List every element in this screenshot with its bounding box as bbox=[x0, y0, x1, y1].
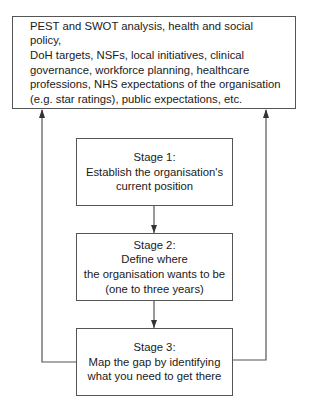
context-line: PEST and SWOT analysis, health and socia… bbox=[30, 19, 281, 48]
context-factors-box: PEST and SWOT analysis, health and socia… bbox=[12, 16, 296, 109]
stage-line: what you need to get there bbox=[77, 369, 232, 384]
stage-title: Stage 3: bbox=[77, 340, 232, 355]
stage-line: Map the gap by identifying bbox=[77, 355, 232, 370]
feedback-right-loop bbox=[233, 110, 266, 360]
feedback-left-loop bbox=[42, 110, 77, 362]
stage-title: Stage 1: bbox=[77, 150, 232, 165]
stage-line: the organisation wants to be bbox=[77, 267, 232, 282]
stage-line: Establish the organisation's bbox=[77, 165, 232, 180]
stage-line: Define where bbox=[77, 252, 232, 267]
context-line: professions, NHS expectations of the org… bbox=[30, 77, 281, 92]
context-line: DoH targets, NSFs, local initiatives, cl… bbox=[30, 48, 281, 63]
context-line: (e.g. star ratings), public expectations… bbox=[30, 92, 281, 107]
stage-1-box: Stage 1: Establish the organisation's cu… bbox=[76, 138, 233, 206]
stage-line: (one to three years) bbox=[77, 282, 232, 297]
stage-3-box: Stage 3: Map the gap by identifying what… bbox=[76, 328, 233, 396]
stage-2-box: Stage 2: Define where the organisation w… bbox=[76, 233, 233, 301]
stage-title: Stage 2: bbox=[77, 238, 232, 253]
context-line: governance, workforce planning, healthca… bbox=[30, 63, 281, 78]
stage-line: current position bbox=[77, 179, 232, 194]
